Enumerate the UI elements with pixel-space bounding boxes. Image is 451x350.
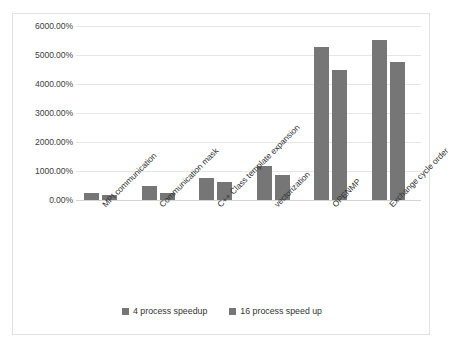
y-axis-tick-label: 2000.00% <box>13 137 73 147</box>
legend-label: 16 process speed up <box>240 306 322 316</box>
y-axis-tick-label: 5000.00% <box>13 50 73 60</box>
y-axis-tick-label: 6000.00% <box>13 21 73 31</box>
legend-label: 4 process speedup <box>133 306 207 316</box>
x-axis-category-labels: MPI communicationCommunication maskC++ C… <box>76 202 421 297</box>
y-axis-tick-label: 0.00% <box>13 195 73 205</box>
y-axis-tick-label: 4000.00% <box>13 79 73 89</box>
bar-group <box>306 26 364 200</box>
bar-group <box>76 26 134 200</box>
bar[interactable] <box>332 70 347 200</box>
legend-item[interactable]: 16 process speed up <box>229 306 322 316</box>
chart-frame: 6000.00%5000.00%4000.00%3000.00%2000.00%… <box>12 13 430 335</box>
bar[interactable] <box>199 178 214 200</box>
bar[interactable] <box>372 40 387 200</box>
y-axis: 6000.00%5000.00%4000.00%3000.00%2000.00%… <box>13 26 73 200</box>
bar[interactable] <box>390 62 405 200</box>
y-axis-tick-label: 3000.00% <box>13 108 73 118</box>
bar[interactable] <box>314 47 329 200</box>
bar-group <box>364 26 422 200</box>
legend-swatch-icon <box>229 308 236 315</box>
gridline <box>76 200 421 201</box>
legend-item[interactable]: 4 process speedup <box>122 306 207 316</box>
chart-legend: 4 process speedup16 process speed up <box>13 306 431 316</box>
bar-group <box>191 26 249 200</box>
bar[interactable] <box>84 193 99 200</box>
y-axis-tick-label: 1000.00% <box>13 166 73 176</box>
bar[interactable] <box>142 186 157 200</box>
legend-swatch-icon <box>122 308 129 315</box>
